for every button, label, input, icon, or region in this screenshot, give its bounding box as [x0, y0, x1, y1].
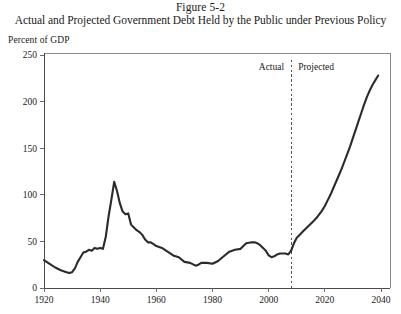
x-tick-label: 2000: [259, 295, 278, 305]
projected-region-label: Projected: [298, 62, 334, 72]
x-tick-label: 2020: [315, 295, 334, 305]
y-tick-label: 50: [28, 237, 38, 247]
y-tick-label: 250: [23, 50, 38, 60]
y-tick-label: 200: [23, 97, 38, 107]
y-tick-label: 150: [23, 144, 38, 154]
x-tick-label: 1960: [147, 295, 166, 305]
actual-region-label: Actual: [259, 62, 285, 72]
figure-container: Figure 5-2 Actual and Projected Governme…: [0, 0, 401, 314]
plot-frame: [44, 53, 390, 288]
cropped-footnote: [0, 309, 401, 314]
x-tick-label: 1920: [35, 295, 54, 305]
y-axis-ticks: 050100150200250: [23, 50, 44, 293]
y-tick-label: 0: [32, 283, 37, 293]
y-tick-label: 100: [23, 190, 38, 200]
debt-series-actual: [44, 182, 291, 273]
debt-series-projected: [291, 76, 378, 251]
chart-plot-area: 050100150200250 192019401960198020002020…: [0, 0, 401, 314]
x-axis-ticks: 1920194019601980200020202040: [35, 288, 391, 305]
x-tick-label: 1940: [91, 295, 110, 305]
x-tick-label: 2040: [372, 295, 391, 305]
x-tick-label: 1980: [203, 295, 222, 305]
